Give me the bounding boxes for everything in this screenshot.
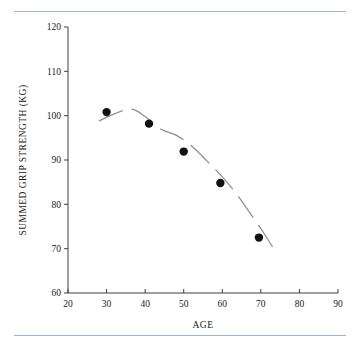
y-tick-label: 100 <box>47 111 62 121</box>
x-tick-label: 90 <box>333 299 343 309</box>
x-tick-label: 50 <box>179 299 189 309</box>
x-tick-label: 60 <box>218 299 228 309</box>
y-tick-label: 120 <box>47 22 62 32</box>
y-tick-label: 70 <box>52 244 62 254</box>
data-point <box>216 179 224 187</box>
x-axis-tick-labels: 2030405060708090 <box>63 299 343 309</box>
scatter-plot: 60708090100110120 2030405060708090 AGE S… <box>0 0 360 347</box>
x-axis-ticks <box>68 289 338 293</box>
x-tick-label: 30 <box>102 299 112 309</box>
y-tick-label: 60 <box>52 288 62 298</box>
y-tick-label: 90 <box>52 155 62 165</box>
y-tick-label: 110 <box>47 67 61 77</box>
data-point-group <box>102 108 263 242</box>
data-point <box>145 119 153 127</box>
trend-line-curve <box>99 109 276 253</box>
data-point <box>102 108 110 116</box>
figure-container: 60708090100110120 2030405060708090 AGE S… <box>0 0 360 347</box>
y-tick-label: 80 <box>52 200 62 210</box>
y-axis-ticks <box>64 27 68 293</box>
x-tick-label: 20 <box>63 299 73 309</box>
x-axis-title: AGE <box>193 320 214 330</box>
x-tick-label: 80 <box>295 299 305 309</box>
y-axis-tick-labels: 60708090100110120 <box>47 22 62 298</box>
data-point <box>180 147 188 155</box>
data-point <box>255 233 263 241</box>
x-tick-label: 70 <box>256 299 266 309</box>
y-axis-title: SUMMED GRIP STRENGTH (KG) <box>18 84 29 235</box>
x-tick-label: 40 <box>140 299 150 309</box>
